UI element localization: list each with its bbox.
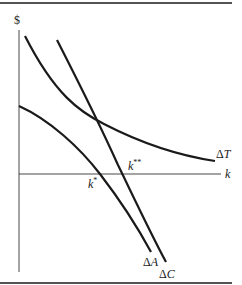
delta-T-curve: [25, 36, 215, 161]
delta-C-curve: [57, 40, 166, 262]
k-star-label: k*: [88, 176, 97, 191]
y-axis-label: $: [14, 13, 20, 27]
economics-diagram: $ k ΔT ΔA ΔC k* k**: [0, 0, 242, 285]
k-double-star-label: k**: [128, 158, 141, 173]
x-axis-label: k: [225, 167, 231, 181]
delta-A-curve: [19, 106, 151, 252]
delta-T-label: ΔT: [216, 147, 232, 161]
delta-C-label: ΔC: [159, 267, 176, 281]
delta-A-label: ΔA: [143, 255, 159, 269]
